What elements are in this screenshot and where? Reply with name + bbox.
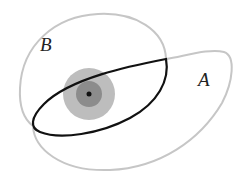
label-b: B — [40, 35, 52, 54]
label-a: A — [198, 70, 210, 89]
venn-diagram — [0, 0, 247, 183]
point-center — [87, 92, 92, 97]
